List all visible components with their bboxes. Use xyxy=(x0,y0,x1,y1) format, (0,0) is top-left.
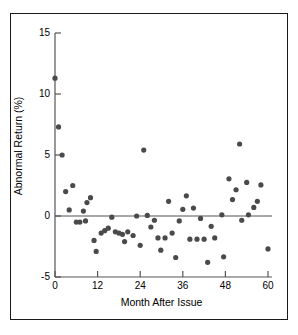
data-point xyxy=(67,207,72,212)
data-point xyxy=(177,218,182,223)
data-point xyxy=(239,218,244,223)
data-point xyxy=(155,235,160,240)
data-point xyxy=(84,200,89,205)
x-tick-label: 12 xyxy=(83,281,113,291)
data-point xyxy=(94,249,99,254)
data-point xyxy=(246,212,251,217)
data-point xyxy=(131,233,136,238)
data-point xyxy=(233,187,238,192)
data-point xyxy=(138,243,143,248)
data-point xyxy=(106,226,111,231)
data-point xyxy=(258,182,263,187)
x-tick-label: 0 xyxy=(40,281,70,291)
data-point xyxy=(170,230,175,235)
data-point xyxy=(148,224,153,229)
data-point xyxy=(77,220,82,225)
data-point xyxy=(184,193,189,198)
data-point xyxy=(191,205,196,210)
plot-area: -5051015 01224364860 Abnormal Return (%)… xyxy=(0,0,298,335)
data-point xyxy=(194,237,199,242)
x-tick-label: 48 xyxy=(210,281,240,291)
y-axis-title: Abnormal Return (%) xyxy=(12,91,24,201)
data-point xyxy=(255,199,260,204)
data-point xyxy=(91,238,96,243)
data-point xyxy=(56,124,61,129)
data-point xyxy=(52,76,57,81)
data-point xyxy=(63,189,68,194)
data-point xyxy=(265,246,270,251)
y-tick-label: 15 xyxy=(22,28,50,38)
data-point xyxy=(198,216,203,221)
y-tick-label: 0 xyxy=(22,211,50,221)
data-point xyxy=(202,237,207,242)
data-point xyxy=(125,229,130,234)
chart-page: -5051015 01224364860 Abnormal Return (%)… xyxy=(0,0,298,335)
data-point xyxy=(251,205,256,210)
x-tick-label: 24 xyxy=(125,281,155,291)
data-point xyxy=(83,218,88,223)
y-tick-label: 10 xyxy=(22,89,50,99)
data-point xyxy=(212,235,217,240)
data-point xyxy=(145,213,150,218)
data-point xyxy=(134,213,139,218)
data-point xyxy=(120,232,125,237)
data-point xyxy=(152,218,157,223)
data-point xyxy=(180,207,185,212)
x-axis-ticks xyxy=(55,271,268,277)
data-point xyxy=(166,199,171,204)
x-tick-label: 60 xyxy=(253,281,283,291)
data-point xyxy=(70,183,75,188)
data-point xyxy=(187,237,192,242)
axis-lines xyxy=(55,33,272,277)
x-tick-label: 36 xyxy=(168,281,198,291)
data-point xyxy=(158,248,163,253)
data-point xyxy=(205,260,210,265)
y-tick-label: 5 xyxy=(22,150,50,160)
data-point xyxy=(230,197,235,202)
data-points-group xyxy=(52,76,270,265)
data-point xyxy=(60,152,65,157)
data-point xyxy=(244,180,249,185)
data-point xyxy=(237,141,242,146)
data-point xyxy=(109,215,114,220)
data-point xyxy=(122,239,127,244)
data-point xyxy=(88,195,93,200)
data-point xyxy=(219,212,224,217)
data-point xyxy=(221,254,226,259)
x-axis-title: Month After Issue xyxy=(55,296,268,308)
data-point xyxy=(209,224,214,229)
data-point xyxy=(226,176,231,181)
data-point xyxy=(173,255,178,260)
data-point xyxy=(81,209,86,214)
data-point xyxy=(162,235,167,240)
data-point xyxy=(141,148,146,153)
